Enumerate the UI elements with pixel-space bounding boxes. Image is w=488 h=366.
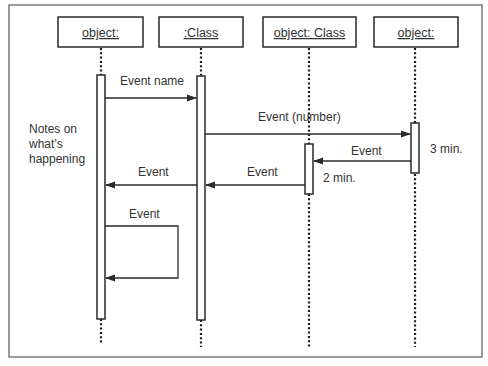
activation-bar-1 (97, 75, 105, 319)
activation-bar-2 (197, 76, 205, 320)
object-label-2: :Class (184, 26, 219, 40)
duration-label-3min: 3 min. (430, 142, 463, 156)
message-label-event-3-to-2: Event (247, 165, 278, 179)
message-label-event-name: Event name (120, 74, 184, 88)
object-box-1: object: (58, 17, 143, 47)
activation-bar-4 (411, 123, 419, 173)
message-label-self: Event (129, 207, 160, 221)
object-label-3: object: Class (274, 26, 346, 40)
diagram-frame (9, 5, 482, 357)
message-label-event-4-to-3: Event (351, 144, 382, 158)
object-box-3: object: Class (263, 17, 356, 47)
duration-label-2min: 2 min. (323, 171, 356, 185)
message-label-event-2-to-1: Event (138, 165, 169, 179)
note-line-2: what’s (28, 137, 63, 151)
note-line-1: Notes on (29, 122, 77, 136)
activation-bar-3 (305, 144, 313, 194)
note-line-3: happening (29, 152, 85, 166)
object-label-1: object: (82, 26, 119, 40)
sequence-diagram: object: :Class object: Class object: Eve… (0, 0, 488, 366)
message-label-event-number: Event (number) (258, 110, 341, 124)
object-box-2: :Class (159, 17, 243, 47)
object-box-4: object: (374, 17, 458, 47)
object-label-4: object: (398, 26, 435, 40)
